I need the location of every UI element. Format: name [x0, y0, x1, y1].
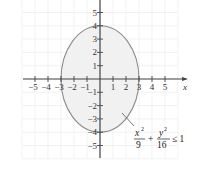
- eq-sup-1: 2: [141, 126, 144, 132]
- eq-denominator-16: 16: [157, 140, 167, 150]
- x-tick-label: −4: [41, 82, 51, 92]
- ellipse-inequality-chart: −5−4−3−2−112345−5−4−3−2−112345 x x 2 9 +…: [0, 0, 203, 175]
- x-tick-label: −2: [67, 82, 77, 92]
- x-tick-label: −3: [54, 82, 64, 92]
- y-tick-label: −1: [87, 87, 97, 97]
- x-tick-label: 3: [137, 82, 142, 92]
- x-tick-label: 1: [111, 82, 116, 92]
- eq-denominator-9: 9: [136, 140, 141, 150]
- eq-sup-2: 2: [164, 126, 167, 132]
- x-tick-label: 5: [163, 82, 168, 92]
- eq-plus: +: [148, 134, 153, 144]
- y-tick-label: 4: [93, 21, 98, 31]
- y-tick-label: 2: [93, 47, 98, 57]
- y-tick-label: −3: [87, 114, 97, 124]
- y-tick-label: −4: [87, 127, 97, 137]
- y-tick-label: −5: [87, 141, 97, 151]
- x-axis-label: x: [182, 82, 187, 92]
- y-tick-label: 3: [93, 34, 98, 44]
- eq-relation: ≤ 1: [172, 134, 185, 144]
- y-tick-label: 5: [93, 8, 98, 18]
- y-tick-label: 1: [93, 61, 98, 71]
- x-tick-label: 2: [124, 82, 129, 92]
- x-axis-arrow-icon: [182, 77, 188, 81]
- inequality-annotation: x 2 9 + y 2 16 ≤ 1: [134, 126, 185, 150]
- x-tick-label: −5: [28, 82, 38, 92]
- eq-numerator-x: x: [134, 128, 140, 138]
- y-tick-label: −2: [87, 101, 97, 111]
- x-tick-label: 4: [150, 82, 155, 92]
